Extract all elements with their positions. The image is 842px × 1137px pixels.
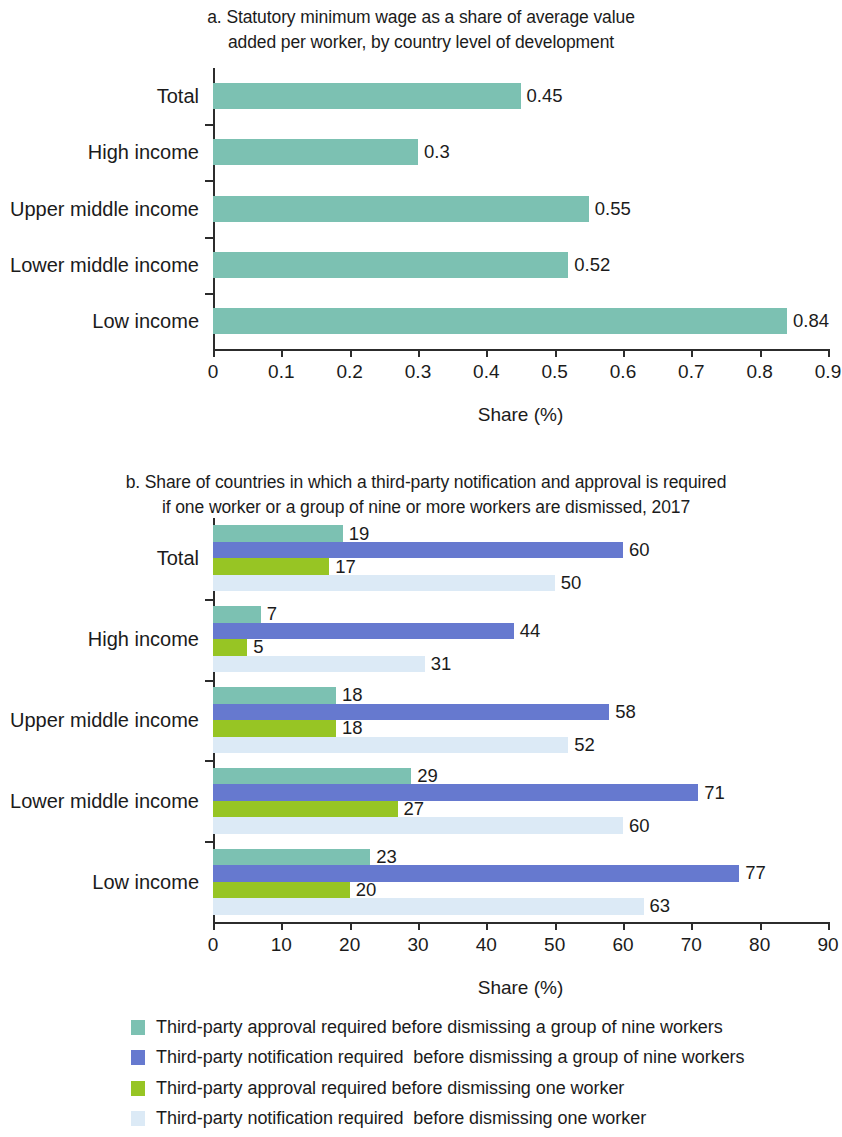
panel-b-y-tick [205,841,213,843]
panel-b-x-tick-label: 0 [208,934,219,956]
legend-color-swatch-icon [131,1020,145,1035]
panel-a-category-label: Lower middle income [10,253,199,276]
panel-a-y-tick [205,180,213,182]
panel-a-bar-value: 0.45 [527,85,563,107]
panel-b-x-tick-label: 90 [817,934,838,956]
panel-a-x-tick-label: 0.1 [268,361,294,383]
panel-b-x-axis [213,922,828,924]
panel-a-category-label: Low income [92,309,199,332]
panel-a-x-tick-label: 0.6 [610,361,636,383]
panel-a-y-tick [205,237,213,239]
panel-a-x-tick [486,349,488,357]
panel-b-x-tick-label: 10 [271,934,292,956]
panel-b-y-tick [205,599,213,601]
panel-b-title-line-1: b. Share of countries in which a third-p… [46,470,806,495]
legend-color-swatch-icon [131,1050,145,1065]
panel-b-x-axis-title: Share (%) [213,977,828,999]
legend-item-label: Third-party approval required before dis… [156,1017,723,1038]
panel-b-bar [213,737,568,754]
panel-a-bar-value: 0.84 [793,310,829,332]
panel-b-bar [213,882,350,899]
panel-a-x-tick-label: 0.9 [815,361,841,383]
panel-a-x-tick [828,349,830,357]
panel-b-bar-value: 31 [431,653,452,675]
legend-item-label: Third-party notification required before… [156,1108,646,1129]
panel-a-x-axis-title: Share (%) [213,404,828,426]
panel-b-bar [213,639,247,656]
panel-b-x-tick [623,922,625,930]
panel-b-bar [213,542,623,559]
panel-a-x-tick-label: 0.3 [405,361,431,383]
panel-a-bar [213,83,521,109]
panel-a-x-tick [555,349,557,357]
panel-a-x-tick [623,349,625,357]
panel-b-x-tick-label: 50 [544,934,565,956]
panel-a-x-tick [213,349,215,357]
panel-b-title-line-2: if one worker or a group of nine or more… [46,495,806,520]
panel-b-bar [213,606,261,623]
panel-b-x-tick [281,922,283,930]
panel-b-x-tick [691,922,693,930]
panel-a-category-label: High income [88,141,199,164]
legend-color-swatch-icon [131,1081,145,1096]
panel-b-bar [213,704,609,721]
panel-a-y-tick [205,124,213,126]
chart-legend: Third-party approval required before dis… [131,1012,831,1134]
panel-b-x-tick [213,922,215,930]
panel-b-bar-value: 50 [561,572,582,594]
panel-a-bar [213,252,568,278]
panel-a-x-tick [691,349,693,357]
panel-a-bar-value: 0.55 [595,198,631,220]
panel-a-x-tick [281,349,283,357]
panel-b-bar-value: 63 [650,895,671,917]
legend-item[interactable]: Third-party notification required before… [131,1104,831,1135]
panel-b-bar [213,768,411,785]
panel-b-x-tick [555,922,557,930]
panel-a-title: a. Statutory minimum wage as a share of … [121,5,721,55]
panel-a-title-line-2: added per worker, by country level of de… [121,30,721,55]
panel-b-bar-value: 60 [629,815,650,837]
panel-b-bar-value: 58 [615,701,636,723]
legend-item-label: Third-party approval required before dis… [156,1078,624,1099]
legend-color-swatch-icon [131,1111,145,1126]
panel-b-x-tick [418,922,420,930]
panel-b-bar-value: 60 [629,539,650,561]
panel-b-category-label: Lower middle income [10,789,199,812]
panel-b-title: b. Share of countries in which a third-p… [46,470,806,520]
panel-b-x-tick [828,922,830,930]
panel-b-x-tick [760,922,762,930]
legend-item[interactable]: Third-party approval required before dis… [131,1012,831,1043]
panel-a-x-tick-label: 0.5 [541,361,567,383]
panel-b-bar [213,898,644,915]
panel-b-bar [213,720,336,737]
panel-b-bar [213,865,739,882]
panel-a-x-tick-label: 0.8 [746,361,772,383]
panel-a-bar [213,308,787,334]
panel-a-x-tick-label: 0.4 [473,361,499,383]
panel-a-plot-area: TotalHigh incomeUpper middle incomeLower… [213,68,828,349]
panel-a-x-axis [213,349,828,351]
panel-b-x-tick [486,922,488,930]
panel-b-x-tick [350,922,352,930]
panel-b-bar-value: 52 [574,734,595,756]
panel-a-category-label: Total [157,85,199,108]
panel-b-bar [213,558,329,575]
panel-b-category-label: Low income [92,870,199,893]
panel-b-x-tick-label: 20 [339,934,360,956]
panel-b-bar-value: 71 [704,782,725,804]
panel-a-x-tick [760,349,762,357]
panel-b-bar [213,656,425,673]
panel-b-y-tick [205,760,213,762]
panel-b-bar [213,801,398,818]
legend-item[interactable]: Third-party approval required before dis… [131,1073,831,1104]
panel-a-bar [213,139,418,165]
panel-b-x-tick-label: 30 [407,934,428,956]
panel-b-bar [213,849,370,866]
panel-b-category-label: Upper middle income [10,709,199,732]
legend-item[interactable]: Third-party notification required before… [131,1043,831,1074]
panel-b-category-label: Total [157,547,199,570]
panel-b-bar-value: 44 [520,620,541,642]
panel-a-bar-value: 0.3 [424,141,450,163]
panel-b-x-tick-label: 70 [681,934,702,956]
panel-a-bar [213,196,589,222]
